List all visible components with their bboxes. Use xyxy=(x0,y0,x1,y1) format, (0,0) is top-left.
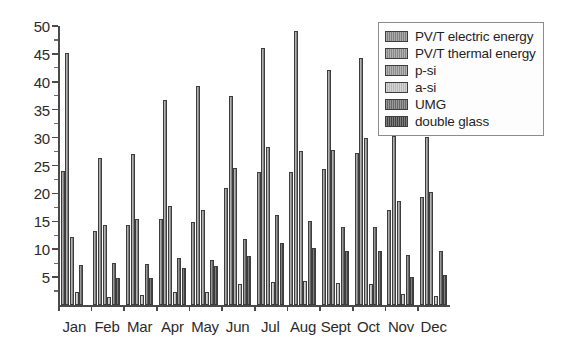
bar-group-may xyxy=(189,26,222,305)
legend-item: UMG xyxy=(385,96,536,113)
x-axis-label-nov: Nov xyxy=(388,318,414,335)
bar xyxy=(257,172,261,305)
bar xyxy=(280,243,284,305)
bar xyxy=(196,86,200,305)
legend-swatch-icon xyxy=(385,116,408,127)
bar xyxy=(327,70,331,305)
bar xyxy=(392,136,396,305)
bar-group-sept xyxy=(319,26,352,305)
x-tick xyxy=(385,305,387,311)
bar xyxy=(98,158,102,305)
legend-label: double glass xyxy=(415,114,489,129)
legend-item: PV/T thermal energy xyxy=(385,45,536,62)
x-tick xyxy=(58,305,60,311)
bar xyxy=(312,248,316,305)
x-axis-label-sept: Sept xyxy=(321,318,351,335)
bar xyxy=(373,227,377,305)
x-axis-label-may: May xyxy=(191,318,219,335)
y-axis-label: 20 xyxy=(34,185,50,202)
x-tick xyxy=(287,305,289,311)
legend-swatch-icon xyxy=(385,48,408,59)
bar xyxy=(341,227,345,305)
bar xyxy=(214,266,218,305)
x-axis-label-feb: Feb xyxy=(94,318,119,335)
x-axis-label-jul: Jul xyxy=(261,318,280,335)
bar xyxy=(173,292,177,305)
y-axis-label: 50 xyxy=(34,18,50,35)
legend-label: p-si xyxy=(415,63,436,78)
bar xyxy=(271,282,275,305)
bar xyxy=(355,153,359,305)
bar xyxy=(238,284,242,305)
x-tick xyxy=(319,305,321,311)
x-tick xyxy=(254,305,256,311)
bar-group-jan xyxy=(58,26,91,305)
bar xyxy=(369,284,373,305)
bar xyxy=(131,154,135,305)
x-tick xyxy=(221,305,223,311)
legend-label: PV/T electric energy xyxy=(415,29,533,44)
bar xyxy=(103,225,107,305)
x-axis-label-oct: Oct xyxy=(357,318,380,335)
bar xyxy=(331,150,335,305)
bar xyxy=(79,265,83,305)
bar xyxy=(116,278,120,305)
legend-swatch-icon xyxy=(385,82,408,93)
bar xyxy=(336,283,340,305)
bar xyxy=(420,197,424,305)
y-axis-label: 5 xyxy=(42,269,50,286)
y-axis-label: 10 xyxy=(34,241,50,258)
bar xyxy=(163,100,167,305)
bar xyxy=(429,192,433,305)
x-tick xyxy=(156,305,158,311)
bar xyxy=(75,292,79,305)
bar xyxy=(201,210,205,305)
bar xyxy=(378,251,382,305)
x-tick xyxy=(417,305,419,311)
bar-group-jul xyxy=(254,26,287,305)
bar xyxy=(439,251,443,305)
bar xyxy=(289,172,293,305)
legend-swatch-icon xyxy=(385,99,408,110)
y-axis-label: 40 xyxy=(34,73,50,90)
bar xyxy=(425,137,429,305)
bar xyxy=(135,219,139,305)
x-axis-label-jan: Jan xyxy=(63,318,87,335)
bar-group-apr xyxy=(156,26,189,305)
legend-item: a-si xyxy=(385,79,536,96)
bar xyxy=(224,188,228,305)
bar xyxy=(303,281,307,305)
bar xyxy=(406,255,410,305)
y-axis-label: 15 xyxy=(34,213,50,230)
bar xyxy=(261,48,265,305)
bar-group-feb xyxy=(91,26,124,305)
bar xyxy=(275,215,279,305)
bar xyxy=(191,222,195,305)
bar xyxy=(93,231,97,305)
x-axis-label-jun: Jun xyxy=(226,318,250,335)
bar xyxy=(443,275,447,305)
x-axis-label-aug: Aug xyxy=(290,318,316,335)
chart-legend: PV/T electric energyPV/T thermal energyp… xyxy=(378,22,544,136)
y-axis-label: 45 xyxy=(34,45,50,62)
legend-label: UMG xyxy=(415,97,446,112)
bar xyxy=(140,295,144,305)
bar xyxy=(126,225,130,305)
bar xyxy=(247,256,251,305)
bar xyxy=(177,258,181,305)
legend-swatch-icon xyxy=(385,31,408,42)
y-axis-label: 25 xyxy=(34,157,50,174)
bar-group-mar xyxy=(123,26,156,305)
y-axis-label: 30 xyxy=(34,129,50,146)
bar xyxy=(397,201,401,305)
bar xyxy=(359,58,363,305)
bar xyxy=(308,221,312,305)
bar xyxy=(345,251,349,305)
legend-item: p-si xyxy=(385,62,536,79)
bar xyxy=(299,151,303,305)
bar xyxy=(182,268,186,305)
bar xyxy=(401,294,405,305)
bar xyxy=(205,292,209,305)
y-axis-label: 35 xyxy=(34,101,50,118)
bar xyxy=(149,278,153,305)
